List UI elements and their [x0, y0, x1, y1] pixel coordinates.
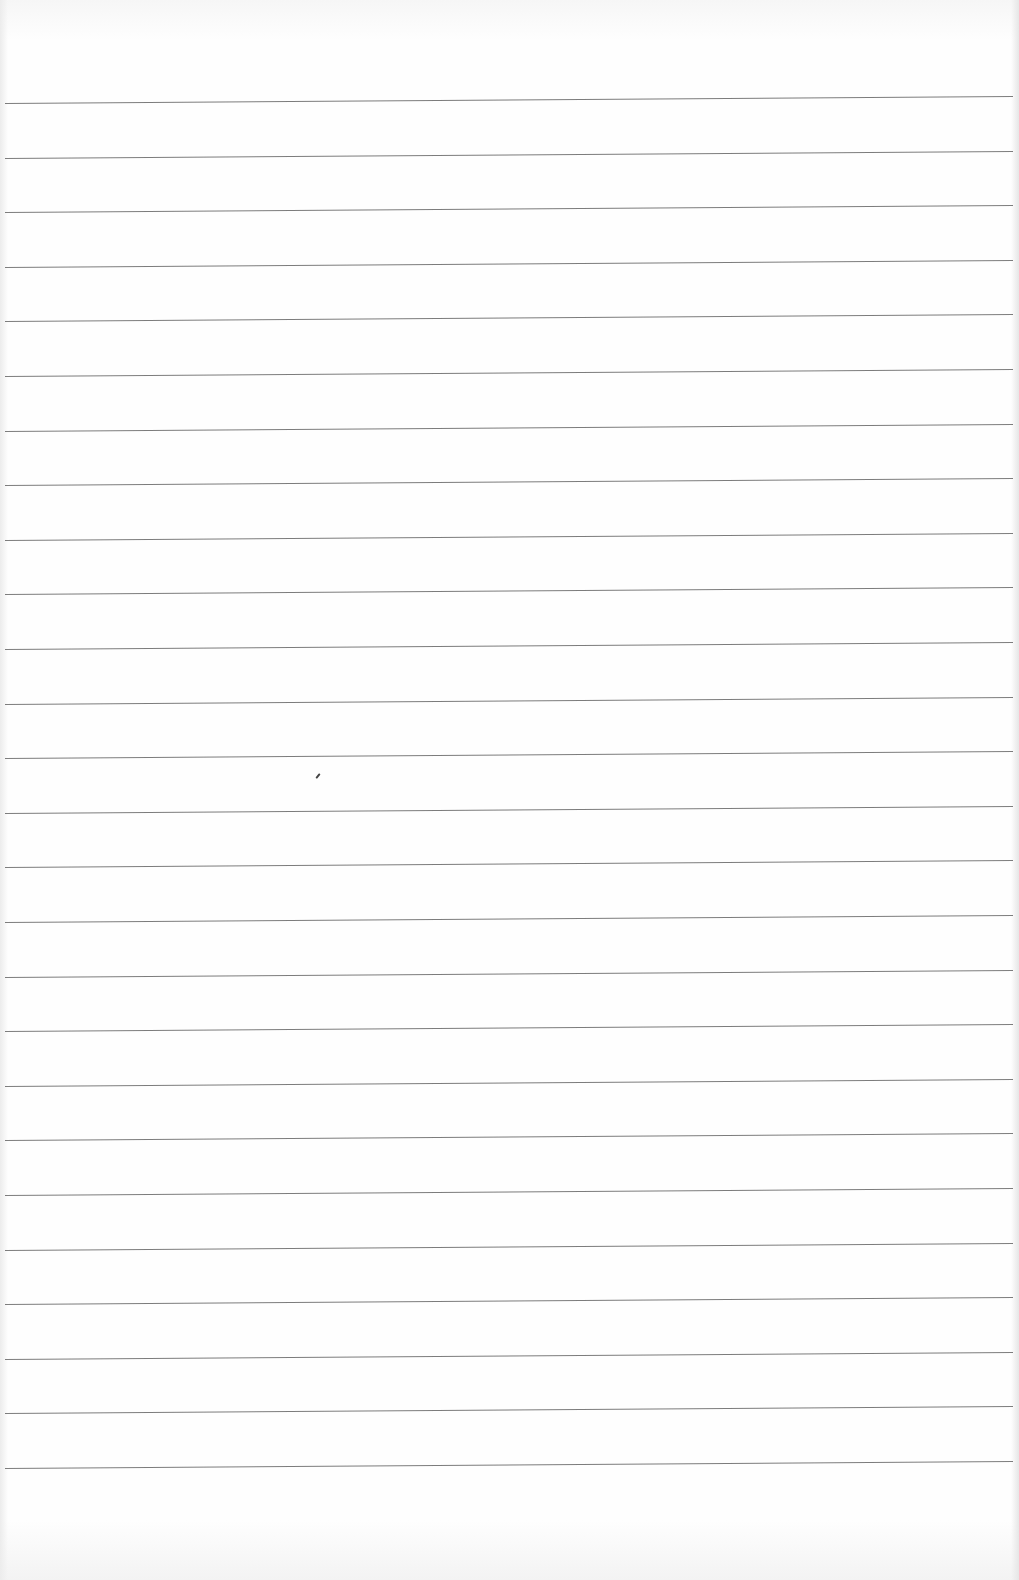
ruled-line: [5, 205, 1013, 213]
ruled-line: [5, 1079, 1013, 1087]
page-right-edge-shadow: [1011, 0, 1019, 1580]
ruled-line: [5, 970, 1013, 978]
ruled-line: [5, 1297, 1013, 1305]
ruled-line: [5, 806, 1013, 814]
ruled-line: [5, 533, 1013, 541]
ruled-paper-page: [0, 0, 1019, 1580]
ruled-line: [5, 424, 1013, 432]
ruled-line: [5, 260, 1013, 268]
ruled-line: [5, 1243, 1013, 1251]
ruled-line: [5, 1188, 1013, 1196]
ruled-line: [5, 151, 1013, 159]
ruled-line: [5, 369, 1013, 377]
ruled-line: [5, 1461, 1013, 1469]
pencil-speck: [315, 773, 320, 779]
ruled-line: [5, 587, 1013, 595]
ruled-line: [5, 860, 1013, 868]
ruled-line: [5, 915, 1013, 923]
ruled-line: [5, 1352, 1013, 1360]
ruled-line: [5, 314, 1013, 322]
ruled-line: [5, 478, 1013, 486]
ruled-line: [5, 1406, 1013, 1414]
page-left-edge-shadow: [0, 0, 8, 1580]
ruled-line: [5, 697, 1013, 705]
ruled-line: [5, 642, 1013, 650]
ruled-line: [5, 1024, 1013, 1032]
ruled-line: [5, 96, 1013, 104]
ruled-line: [5, 1133, 1013, 1141]
ruled-line: [5, 751, 1013, 759]
